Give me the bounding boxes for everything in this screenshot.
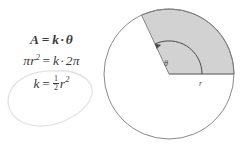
equation-line-2: πr2=k·2π [23,54,79,68]
equation-3-rhs-exponent: 2 [65,75,69,84]
equation-1-relation: = [39,32,52,47]
fraction-numerator: 1 [53,75,59,83]
equation-2-relation: = [40,53,53,68]
equation-1-lhs: A [30,32,39,47]
angle-label: θ [164,60,168,68]
equation-2-lhs-base: πr [23,53,35,68]
equation-1-operator: · [59,32,66,47]
equation-1-variable: θ [66,32,73,47]
equation-2-variable: 2π [66,53,80,68]
equation-line-1: A=k·θ [30,33,73,47]
shaded-sector [142,9,234,74]
equation-line-3: k=12r2 [33,75,69,93]
one-half-fraction: 12 [53,75,59,93]
equation-2-operator: · [59,53,66,68]
equation-3-relation: = [40,76,53,91]
equation-3-lhs: k [33,76,39,91]
equation-block: A=k·θ πr2=k·2π k=12r2 [0,33,103,105]
radius-label: r [199,80,202,88]
circle-diagram [98,0,243,150]
figure-canvas: A=k·θ πr2=k·2π k=12r2 θ r [0,0,243,150]
fraction-denominator: 2 [53,83,59,92]
